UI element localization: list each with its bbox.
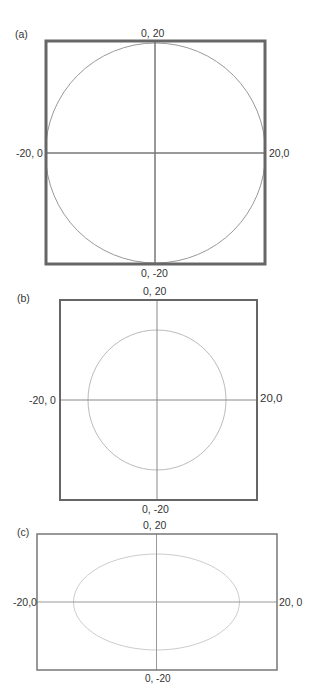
panel-b-bottom-label: 0, -20 (142, 503, 169, 515)
panel-b-top-label: 0, 20 (143, 285, 166, 297)
panel-b-label: (b) (17, 292, 30, 304)
panel-c-label: (c) (17, 526, 29, 538)
panel-a-bottom-label: 0, -20 (141, 267, 168, 279)
panel-c (37, 534, 277, 670)
panel-b-right-label: 20,0 (260, 392, 282, 404)
panel-b (60, 300, 257, 500)
panel-c-top-label: 0, 20 (143, 519, 166, 531)
panel-a-right-label: 20,0 (269, 147, 289, 159)
panel-c-left-label: -20,0 (13, 596, 37, 608)
panel-a-left-label: -20, 0 (16, 147, 43, 159)
panel-a-label: (a) (15, 28, 28, 40)
panel-b-left-label: -20, 0 (29, 394, 56, 406)
panel-a-top-label: 0, 20 (141, 27, 164, 39)
panel-c-right-label: 20, 0 (279, 596, 302, 608)
panel-a (46, 41, 266, 264)
panel-c-bottom-label: 0, -20 (145, 673, 171, 684)
figure-canvas (0, 0, 310, 700)
